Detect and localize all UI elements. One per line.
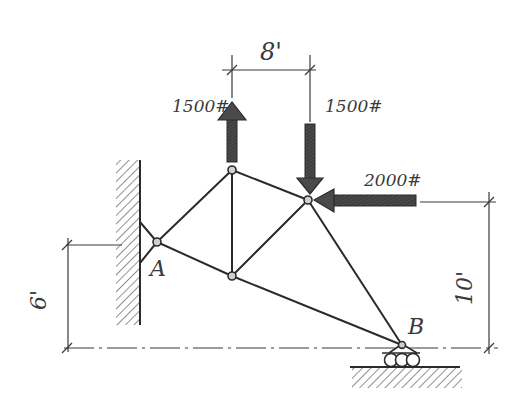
load-down-arrow [297, 124, 323, 194]
arrow-shaft-up [227, 118, 237, 162]
arrow-shaft-down [305, 124, 315, 180]
support-label-a: A [148, 256, 166, 281]
member-a-bottom [157, 242, 232, 276]
load-label-down: 1500# [325, 96, 383, 116]
roller-3 [407, 354, 420, 367]
ground-support [350, 344, 462, 388]
support-label-b: B [407, 314, 424, 339]
dim-label-8ft: 8' [260, 38, 282, 66]
load-label-left: 2000# [363, 170, 422, 190]
dimension-6ft [62, 238, 122, 353]
arrow-head-down [297, 178, 323, 194]
truss-diagram: 8' 1500# 1500# 2000# A B 6' 10' [0, 0, 524, 414]
member-a-top [157, 170, 232, 242]
node-a [153, 238, 161, 246]
dim-label-10ft: 10' [452, 271, 477, 305]
node-bottom [228, 272, 236, 280]
node-right [304, 196, 312, 204]
member-right-b [308, 200, 402, 345]
member-top-right [232, 170, 308, 200]
member-bottom-b [232, 276, 402, 345]
wall-hatching [116, 160, 140, 325]
node-top [228, 166, 236, 174]
ground-hatching [352, 368, 462, 388]
arrow-head-left [314, 189, 334, 212]
member-bottom-right [232, 200, 308, 276]
load-left-arrow [314, 189, 416, 212]
wall-support [116, 160, 140, 325]
dim-label-6ft: 6' [26, 290, 51, 310]
load-label-up: 1500# [172, 96, 230, 116]
arrow-shaft-left [332, 195, 416, 206]
